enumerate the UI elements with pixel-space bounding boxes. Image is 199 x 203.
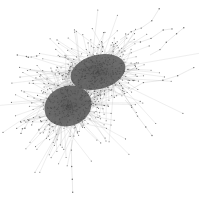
graph-node: [83, 109, 84, 110]
graph-node: [64, 97, 65, 98]
graph-node: [136, 112, 137, 113]
graph-node: [193, 67, 194, 68]
graph-node: [82, 73, 83, 74]
graph-node: [82, 121, 83, 122]
graph-node: [94, 70, 95, 71]
graph-node: [84, 61, 85, 62]
graph-node: [39, 117, 40, 118]
graph-node: [107, 84, 108, 85]
graph-node: [121, 85, 122, 86]
graph-node: [31, 56, 32, 57]
graph-node: [67, 109, 68, 110]
graph-node: [57, 124, 58, 125]
graph-node: [95, 111, 96, 112]
graph-node: [104, 63, 105, 64]
graph-node: [56, 39, 57, 40]
graph-node: [125, 138, 126, 139]
graph-node: [77, 132, 78, 133]
graph-node: [59, 73, 60, 74]
graph-node: [144, 64, 145, 65]
graph-node: [86, 84, 87, 85]
graph-node: [60, 91, 61, 92]
graph-node: [100, 98, 101, 99]
graph-node: [162, 80, 163, 81]
graph-node: [137, 76, 138, 77]
graph-edge: [143, 80, 163, 82]
graph-node: [100, 70, 101, 71]
graph-node: [66, 115, 67, 116]
graph-node: [97, 92, 98, 93]
graph-node: [42, 70, 43, 71]
graph-node: [97, 65, 98, 66]
graph-node: [37, 95, 38, 96]
graph-node: [111, 113, 112, 114]
graph-node: [101, 69, 102, 70]
graph-node: [94, 99, 95, 100]
graph-node: [104, 90, 105, 91]
graph-edge: [25, 120, 29, 128]
graph-node: [79, 99, 80, 100]
graph-node: [59, 111, 60, 112]
graph-node: [108, 106, 109, 107]
graph-node: [16, 128, 17, 129]
graph-node: [92, 72, 93, 73]
graph-node: [106, 81, 107, 82]
graph-node: [86, 108, 87, 109]
graph-node: [85, 101, 86, 102]
graph-node: [57, 109, 58, 110]
graph-node: [70, 95, 71, 96]
graph-node: [101, 72, 102, 73]
graph-node: [21, 90, 22, 91]
graph-node: [83, 118, 84, 119]
graph-node: [104, 94, 105, 95]
graph-node: [151, 135, 152, 136]
graph-node: [25, 121, 26, 122]
graph-node: [62, 117, 63, 118]
graph-node: [62, 79, 63, 80]
graph-node: [36, 149, 37, 150]
graph-node: [59, 113, 60, 114]
graph-node: [134, 63, 135, 64]
graph-node: [96, 53, 97, 54]
graph-node: [29, 106, 30, 107]
graph-node: [49, 113, 50, 114]
graph-node: [97, 117, 98, 118]
graph-node: [82, 95, 83, 96]
graph-edge: [160, 42, 166, 49]
graph-node: [96, 87, 97, 88]
graph-node: [71, 106, 72, 107]
graph-node: [119, 68, 120, 69]
graph-node: [97, 98, 98, 99]
graph-node: [66, 98, 67, 99]
graph-node: [65, 99, 66, 100]
graph-node: [123, 59, 124, 60]
graph-node: [109, 64, 110, 65]
graph-node: [143, 75, 144, 76]
graph-node: [49, 139, 50, 140]
graph-node: [91, 161, 92, 162]
graph-node: [103, 32, 104, 33]
graph-node: [48, 83, 49, 84]
graph-node: [61, 93, 62, 94]
graph-node: [93, 105, 94, 106]
graph-node: [62, 147, 63, 148]
graph-node: [73, 116, 74, 117]
graph-node: [66, 124, 67, 125]
graph-node: [69, 105, 70, 106]
graph-node: [104, 124, 105, 125]
graph-node: [51, 108, 52, 109]
graph-node: [73, 114, 74, 115]
graph-node: [83, 59, 84, 60]
graph-node: [102, 46, 103, 47]
graph-node: [136, 56, 137, 57]
graph-node: [128, 154, 129, 155]
graph-node: [43, 105, 44, 106]
graph-node: [155, 123, 156, 124]
graph-node: [103, 105, 104, 106]
graph-node: [76, 75, 77, 76]
graph-node: [74, 125, 75, 126]
graph-node: [70, 90, 71, 91]
graph-node: [84, 63, 85, 64]
graph-node: [33, 98, 34, 99]
graph-node: [76, 56, 77, 57]
